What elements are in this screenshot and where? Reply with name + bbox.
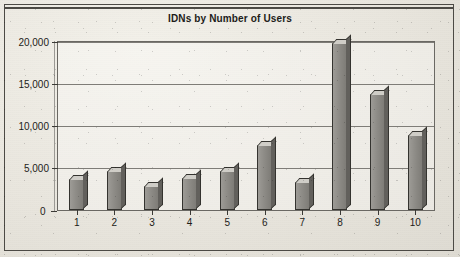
y-axis-label-15000: 15,000: [18, 79, 49, 90]
bar-side-face-3: [158, 178, 163, 209]
bar-front-5: [220, 171, 235, 210]
bar-7: [284, 42, 322, 210]
bar-9: [359, 42, 397, 210]
bar-front-3: [144, 186, 159, 210]
y-axis-label-5000: 5,000: [24, 163, 49, 174]
bar-front-1: [69, 179, 84, 210]
bar-8: [321, 42, 359, 210]
x-axis-tick-9: [378, 210, 379, 215]
x-axis-tick-2: [114, 210, 115, 215]
x-axis-tick-4: [190, 210, 191, 215]
y-axis-label-10000: 10,000: [18, 121, 49, 132]
y-axis-tick-0: [51, 211, 57, 212]
x-axis-label-1: 1: [74, 217, 80, 228]
x-axis-label-2: 2: [112, 217, 118, 228]
bar-side-face-5: [234, 162, 239, 209]
x-axis-tick-8: [340, 210, 341, 215]
bar-4: [171, 42, 209, 210]
bar-side-face-1: [83, 170, 88, 209]
x-axis-label-8: 8: [337, 217, 343, 228]
bar-3: [133, 42, 171, 210]
bar-10: [396, 42, 434, 210]
x-axis-label-4: 4: [187, 217, 193, 228]
bar-front-10: [408, 135, 423, 210]
bar-side-face-9: [384, 86, 389, 209]
bar-side-face-7: [309, 174, 314, 209]
x-axis-tick-1: [77, 210, 78, 215]
x-axis-tick-5: [227, 210, 228, 215]
x-axis-label-6: 6: [262, 217, 268, 228]
x-axis-label-5: 5: [224, 217, 230, 228]
x-axis-tick-7: [302, 210, 303, 215]
bar-front-7: [295, 182, 310, 210]
bar-side-face-4: [196, 170, 201, 209]
x-axis-label-3: 3: [149, 217, 155, 228]
bar-1: [58, 42, 96, 210]
bar-side-face-8: [346, 34, 351, 209]
figure-page: IDNs by Number of Users 0 5,00010,00015,…: [0, 0, 460, 257]
bar-front-6: [257, 145, 272, 210]
bar-side-face-10: [422, 127, 427, 209]
bar-6: [246, 42, 284, 210]
y-axis-label-0: 0: [40, 206, 46, 217]
x-axis-label-9: 9: [375, 217, 381, 228]
bar-5: [208, 42, 246, 210]
chart-title: IDNs by Number of Users: [0, 13, 460, 24]
bar-side-face-6: [271, 137, 276, 209]
bar-front-2: [107, 171, 122, 210]
bar-side-face-2: [121, 162, 126, 209]
bar-front-8: [332, 43, 347, 210]
bar-front-9: [370, 94, 385, 210]
plot-area: 5,00010,00015,00020,000 12345678910: [57, 41, 435, 211]
x-axis-label-7: 7: [300, 217, 306, 228]
x-axis-tick-6: [265, 210, 266, 215]
bar-front-4: [182, 178, 197, 210]
bar-2: [96, 42, 134, 210]
x-axis-tick-3: [152, 210, 153, 215]
x-axis-label-10: 10: [410, 217, 421, 228]
x-axis-tick-10: [415, 210, 416, 215]
y-axis-label-20000: 20,000: [18, 37, 49, 48]
